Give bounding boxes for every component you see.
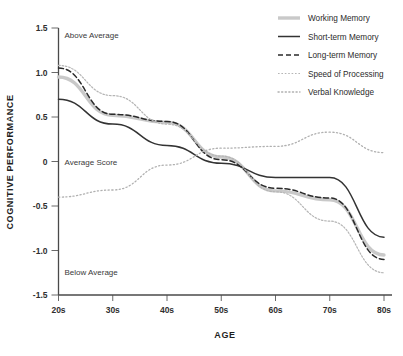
legend-label: Verbal Knowledge xyxy=(308,88,374,97)
x-axis-tick-label: 40s xyxy=(160,305,174,315)
x-axis-tick-label: 50s xyxy=(214,305,228,315)
y-axis-tick-label: 1.0 xyxy=(36,68,48,78)
x-axis-tick-label: 60s xyxy=(268,305,282,315)
legend-label: Speed of Processing xyxy=(308,70,384,79)
x-axis-title: AGE xyxy=(214,330,235,340)
legend-item: Long-term Memory xyxy=(278,51,378,60)
y-axis-tick-label: -0.5 xyxy=(33,201,48,211)
y-axis-tick-label: 0.5 xyxy=(36,112,48,122)
y-axis-tick-group: 1.51.00.50-0.5-1.0-1.5 xyxy=(33,23,59,300)
y-axis-title: COGNITIVE PERFORMANCE xyxy=(5,94,15,229)
cognitive-performance-figure: Above AverageAverage ScoreBelow Average … xyxy=(0,0,403,356)
legend-item: Short-term Memory xyxy=(278,33,379,42)
y-axis-tick-label: -1.5 xyxy=(33,290,48,300)
legend-label: Working Memory xyxy=(308,14,371,23)
zone-annotation: Below Average xyxy=(65,268,119,277)
x-axis-tick-label: 80s xyxy=(377,305,391,315)
y-axis-tick-label: 0 xyxy=(43,157,48,167)
legend-label: Long-term Memory xyxy=(308,51,378,60)
cognitive-performance-chart: Above AverageAverage ScoreBelow Average … xyxy=(0,0,403,356)
y-axis-tick-label: -1.0 xyxy=(33,246,48,256)
zone-annotation: Average Score xyxy=(65,158,118,167)
data-series-line xyxy=(59,99,385,237)
zone-label-group: Above AverageAverage ScoreBelow Average xyxy=(65,31,120,277)
x-axis-tick-label: 70s xyxy=(323,305,337,315)
legend-item: Working Memory xyxy=(278,14,371,23)
legend-item: Speed of Processing xyxy=(278,70,384,79)
zone-annotation: Above Average xyxy=(65,31,120,40)
y-axis-tick-label: 1.5 xyxy=(36,23,48,33)
x-axis-tick-label: 20s xyxy=(51,305,65,315)
legend-item: Verbal Knowledge xyxy=(278,88,374,97)
legend-label: Short-term Memory xyxy=(308,33,379,42)
x-axis-tick-label: 30s xyxy=(106,305,120,315)
chart-legend: Working MemoryShort-term MemoryLong-term… xyxy=(278,14,384,97)
x-axis-tick-group: 20s30s40s50s60s70s80s xyxy=(51,295,391,315)
